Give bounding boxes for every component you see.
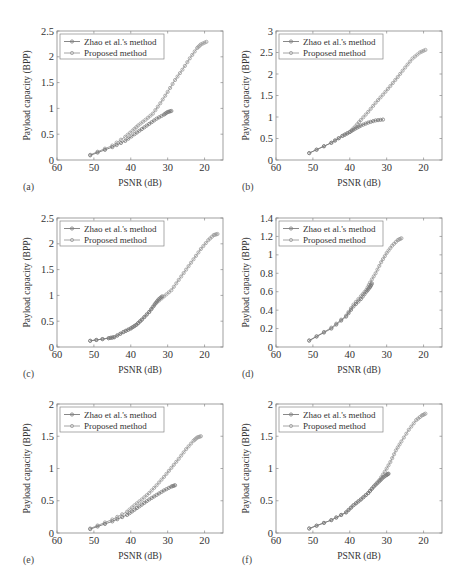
x-tick-label: 30 [381,535,392,546]
y-tick-label: 0 [49,342,54,353]
panel-label-e: (e) [23,554,34,565]
legend: Zhao et al.'s methodProposed method [60,407,164,432]
y-tick-label: 0.5 [260,495,273,506]
series-proposed-line [90,436,201,528]
legend-entry-zhao: Zhao et al.'s method [84,224,157,234]
y-tick-label: 2 [49,399,54,410]
legend: Zhao et al.'s methodProposed method [279,407,383,432]
y-tick-label: 0.5 [260,133,273,144]
y-tick-label: 1.5 [41,431,54,442]
legend-entry-zhao: Zhao et al.'s method [303,224,376,234]
chart-d-svg: 605040302000.20.40.60.811.21.4PSNR (dB)P… [219,187,452,382]
y-tick-label: 1 [49,290,54,301]
x-tick-label: 40 [126,349,137,360]
legend-entry-proposed: Proposed method [84,421,147,431]
legend: Zhao et al.'s methodProposed method [279,34,383,59]
x-tick-label: 40 [345,162,356,173]
legend: Zhao et al.'s methodProposed method [60,221,164,246]
y-axis-label: Payload capacity (BPP) [22,423,33,513]
x-tick-label: 50 [89,162,100,173]
legend-entry-proposed: Proposed method [84,235,147,245]
x-tick-label: 50 [308,162,319,173]
chart-c-svg: 605040302000.511.522.5PSNR (dB)Payload c… [0,187,233,382]
x-tick-label: 50 [308,535,319,546]
legend-entry-zhao: Zhao et al.'s method [84,37,157,47]
y-tick-label: 2.5 [41,213,54,224]
y-tick-label: 0.4 [260,305,274,316]
y-tick-label: 1 [268,249,273,260]
series-proposed-line [90,234,217,341]
y-axis-label: Payload capacity (BPP) [241,423,252,513]
legend-entry-zhao: Zhao et al.'s method [84,410,157,420]
legend-entry-proposed: Proposed method [303,48,366,58]
y-tick-label: 2.5 [41,26,54,37]
x-tick-label: 30 [381,162,392,173]
x-tick-label: 40 [126,535,137,546]
y-tick-label: 3 [268,26,273,37]
x-tick-label: 30 [162,162,173,173]
series-zhao-line [90,111,171,155]
y-tick-label: 0 [49,155,54,166]
y-tick-label: 1.4 [260,213,274,224]
y-tick-label: 0 [268,155,273,166]
y-tick-label: 0.5 [41,495,54,506]
chart-e-svg: 605040302000.511.52PSNR (dB)Payload capa… [0,373,233,568]
x-tick-label: 50 [89,535,100,546]
series-zhao-line [309,283,372,340]
x-tick-label: 40 [345,349,356,360]
chart-panel-b: 605040302000.511.522.53PSNR (dB)Payload … [219,0,452,195]
y-tick-label: 0.8 [260,268,273,279]
y-tick-label: 1.5 [260,90,273,101]
series-zhao-line [90,296,162,340]
chart-panel-d: 605040302000.20.40.60.811.21.4PSNR (dB)P… [219,187,452,382]
legend-entry-proposed: Proposed method [84,48,147,58]
y-tick-label: 0.5 [41,316,54,327]
chart-panel-a: 605040302000.511.522.5PSNR (dB)Payload c… [0,0,233,195]
panel-label-f: (f) [242,554,252,565]
legend: Zhao et al.'s methodProposed method [60,34,164,59]
legend-entry-zhao: Zhao et al.'s method [303,37,376,47]
chart-b-svg: 605040302000.511.522.53PSNR (dB)Payload … [219,0,452,195]
x-tick-label: 30 [162,535,173,546]
y-tick-label: 1.5 [260,431,273,442]
y-tick-label: 2 [268,69,273,80]
series-proposed-line [309,50,425,153]
data-point-marker [308,152,311,155]
chart-panel-f: 605040302000.511.52PSNR (dB)Payload capa… [219,373,452,568]
y-tick-label: 1 [268,463,273,474]
x-tick-label: 20 [418,349,429,360]
legend-entry-zhao: Zhao et al.'s method [303,410,376,420]
x-axis-label: PSNR (dB) [118,551,162,562]
x-tick-label: 20 [199,162,210,173]
y-tick-label: 0 [268,528,273,539]
x-tick-label: 20 [199,349,210,360]
x-tick-label: 50 [89,349,100,360]
chart-a-svg: 605040302000.511.522.5PSNR (dB)Payload c… [0,0,233,195]
y-tick-label: 1 [49,463,54,474]
y-tick-label: 0.5 [41,129,54,140]
chart-panel-c: 605040302000.511.522.5PSNR (dB)Payload c… [0,187,233,382]
x-tick-label: 20 [199,535,210,546]
y-tick-label: 1.5 [41,77,54,88]
legend: Zhao et al.'s methodProposed method [279,221,383,246]
legend-entry-proposed: Proposed method [303,235,366,245]
y-axis-label: Payload capacity (BPP) [22,237,33,327]
y-axis-label: Payload capacity (BPP) [241,237,252,327]
y-tick-label: 0.2 [260,323,273,334]
y-tick-label: 1.5 [41,264,54,275]
y-tick-label: 1.2 [260,231,273,242]
y-tick-label: 0.6 [260,286,273,297]
x-axis-label: PSNR (dB) [337,551,381,562]
y-axis-label: Payload capacity (BPP) [22,50,33,140]
y-tick-label: 2 [49,51,54,62]
y-tick-label: 1 [49,103,54,114]
y-axis-label: Payload capacity (BPP) [241,50,252,140]
x-tick-label: 20 [418,162,429,173]
x-tick-label: 50 [308,349,319,360]
series-proposed-line [309,238,401,340]
y-tick-label: 0 [49,528,54,539]
legend-entry-proposed: Proposed method [303,421,366,431]
chart-f-svg: 605040302000.511.52PSNR (dB)Payload capa… [219,373,452,568]
x-tick-label: 20 [418,535,429,546]
x-tick-label: 40 [126,162,137,173]
